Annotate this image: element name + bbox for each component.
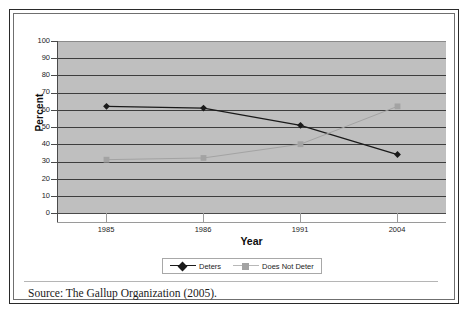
x-tick-label-1986: 1986 [173,225,233,234]
line-chart: Percent 100 90 80 70 60 50 40 30 20 10 0 [10,10,460,278]
data-point-square [395,103,401,109]
y-tick-label-80: 80 [28,71,50,79]
x-category-baseline [57,222,446,223]
data-point-square [104,157,110,163]
x-tick-mark-1986 [203,213,204,222]
legend-swatch-deters [170,261,196,271]
legend-label-does-not-deter: Does Not Deter [262,262,314,271]
y-axis-tick-labels: 100 90 80 70 60 50 40 30 20 10 0 [24,10,50,278]
x-tick-label-1985: 1985 [76,225,136,234]
y-tick-label-30: 30 [28,157,50,165]
x-tick-label-2004: 2004 [367,225,427,234]
y-tick-label-50: 50 [28,123,50,131]
y-tick-label-20: 20 [28,175,50,183]
y-tick-label-40: 40 [28,140,50,148]
series-line [107,106,398,159]
y-tick-label-0: 0 [28,209,50,217]
data-point-diamond [394,151,401,158]
x-axis-title: Year [57,235,446,247]
x-axis-line [57,213,446,214]
source-divider [24,281,438,282]
series-line [107,106,398,154]
data-point-diamond [103,103,110,110]
x-tick-mark-1991 [300,213,301,222]
data-point-square [298,141,304,147]
y-tick-label-90: 90 [28,54,50,62]
y-tick-label-100: 100 [28,37,50,45]
y-tick-label-10: 10 [28,192,50,200]
x-tick-mark-1985 [106,213,107,222]
y-tick-label-70: 70 [28,88,50,96]
figure-frame: Percent 100 90 80 70 60 50 40 30 20 10 0 [9,9,459,304]
legend-entry-does-not-deter[interactable]: Does Not Deter [233,261,314,271]
diamond-marker-icon [178,262,188,272]
legend-label-deters: Deters [199,262,221,271]
legend-entry-deters[interactable]: Deters [170,261,221,271]
legend-swatch-does-not-deter [233,261,259,271]
data-point-square [201,155,207,161]
chart-legend: Deters Does Not Deter [162,258,322,274]
series-layer [58,41,446,213]
series-does-not-deter [104,103,401,162]
series-deters [103,103,401,158]
x-tick-label-1991: 1991 [270,225,330,234]
source-note: Source: The Gallup Organization (2005). [28,287,217,299]
data-point-diamond [200,105,207,112]
square-marker-icon [242,263,249,270]
data-point-diamond [297,122,304,129]
x-tick-mark-2004 [397,213,398,222]
y-tick-label-60: 60 [28,106,50,114]
